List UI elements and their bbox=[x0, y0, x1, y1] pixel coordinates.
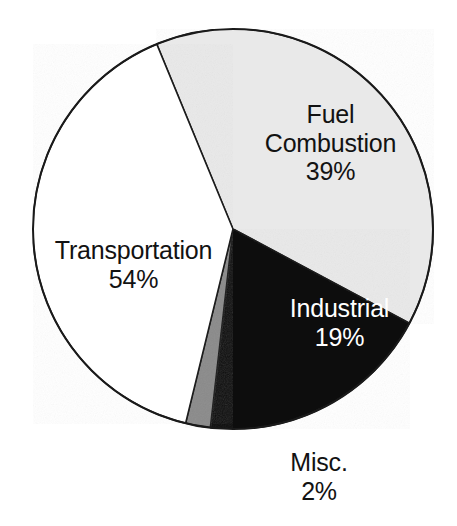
slice-label-misc-line1: Misc. bbox=[254, 448, 384, 477]
slice-label-fuel-combustion: Fuel Combustion 39% bbox=[243, 100, 418, 186]
pie-chart-figure: Fuel Combustion 39% Transportation 54% I… bbox=[0, 0, 457, 526]
slice-label-fuel-combustion-line1: Fuel bbox=[243, 100, 418, 129]
slice-value-fuel-combustion: 39% bbox=[243, 157, 418, 186]
slice-label-misc: Misc. 2% bbox=[254, 448, 384, 505]
slice-value-misc: 2% bbox=[254, 477, 384, 506]
slice-label-transportation: Transportation 54% bbox=[36, 236, 231, 293]
slice-label-transportation-line1: Transportation bbox=[36, 236, 231, 265]
slice-value-transportation: 54% bbox=[36, 265, 231, 294]
pie-slice-group bbox=[33, 29, 433, 429]
slice-label-industrial-line1: Industrial bbox=[272, 294, 407, 323]
slice-label-fuel-combustion-line2: Combustion bbox=[243, 129, 418, 158]
slice-value-industrial: 19% bbox=[272, 323, 407, 352]
slice-label-industrial: Industrial 19% bbox=[272, 294, 407, 351]
